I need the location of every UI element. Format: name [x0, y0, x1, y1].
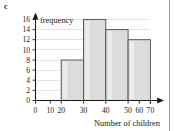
x-tick-label: 50 — [124, 106, 132, 115]
x-axis-arrow-icon — [157, 98, 164, 104]
histogram-figure: c — [0, 0, 174, 131]
y-axis-arrow-icon — [33, 13, 39, 20]
x-tick-label: 20 — [57, 106, 65, 115]
y-tick-label: 12 — [22, 35, 30, 44]
y-tick-label: 16 — [22, 15, 30, 24]
y-tick-label: 2 — [26, 86, 30, 95]
y-tick-label: 0 — [26, 96, 30, 105]
y-tick-label: 4 — [26, 76, 30, 85]
bar-20-30-sheen — [63, 61, 67, 99]
x-axis-title: Number of children — [94, 119, 161, 128]
x-tick-labels: 0 10 20 30 40 50 60 70 — [34, 106, 155, 115]
bar-30-40-sheen — [85, 21, 89, 99]
bar-50-60-sheen — [130, 41, 134, 99]
y-tick-label: 8 — [26, 56, 30, 65]
x-tick-label: 60 — [136, 106, 144, 115]
x-tick-label: 70 — [147, 106, 155, 115]
x-tick-label: 0 — [34, 106, 38, 115]
y-axis — [33, 13, 39, 101]
y-tick-label: 10 — [22, 46, 30, 55]
bar-series — [61, 19, 150, 100]
y-axis-title: frequency — [40, 16, 74, 25]
x-tick-label: 10 — [46, 106, 54, 115]
histogram-plot: 0 2 4 6 8 10 12 14 16 0 10 20 30 40 50 6… — [0, 0, 174, 131]
x-tick-label: 40 — [102, 106, 110, 115]
y-tick-labels: 0 2 4 6 8 10 12 14 16 — [22, 15, 30, 105]
y-tick-label: 14 — [22, 25, 30, 34]
bar-40-50-sheen — [108, 31, 112, 99]
y-tick-label: 6 — [26, 66, 30, 75]
x-tick-label: 30 — [80, 106, 88, 115]
